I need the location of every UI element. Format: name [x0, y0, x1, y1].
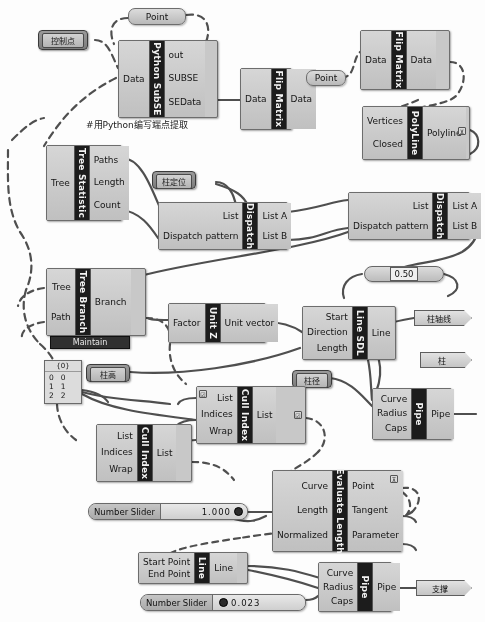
port-in-list[interactable]: List — [413, 201, 429, 212]
port-in-direction[interactable]: Direction — [307, 327, 348, 338]
port-in-curve[interactable]: Curve — [301, 481, 328, 492]
port-out-unit-vector[interactable]: Unit vector — [225, 318, 275, 329]
number-slider-1-knob[interactable] — [234, 507, 243, 516]
pipe-2-outputs[interactable]: Pipe — [373, 563, 400, 611]
port-in-end-point[interactable]: End Point — [148, 569, 190, 580]
tree-branch-outputs[interactable]: Branch — [91, 269, 131, 335]
port-out-tangent[interactable]: Tangent — [352, 505, 388, 516]
port-in-normalized[interactable]: Normalized — [277, 530, 328, 541]
number-slider-2-value[interactable]: 0.023 — [231, 598, 260, 608]
port-in-dispatch-pattern[interactable]: Dispatch pattern — [163, 231, 238, 242]
cull-index-1-outputs[interactable]: List — [253, 387, 277, 443]
tree-branch-maintain-bar[interactable]: Maintain — [50, 336, 130, 349]
line-sdl-inputs[interactable]: Start Direction Length — [303, 307, 352, 359]
line-sdl-outputs[interactable]: Line — [368, 307, 395, 359]
port-out-list-a[interactable]: List A — [262, 211, 287, 222]
port-in-start[interactable]: Start — [326, 312, 348, 323]
grasshopper-canvas[interactable]: Point 控制点 Data Python SubSE out SUBSE SE… — [0, 0, 485, 622]
component-unit-z[interactable]: Factor Unit Z Unit vector — [168, 303, 266, 343]
tag-column[interactable]: 柱 — [420, 352, 472, 368]
cull-index-2-outputs[interactable]: List — [153, 425, 177, 481]
port-in-wrap[interactable]: Wrap — [209, 426, 232, 437]
component-evaluate-length[interactable]: Curve Length Normalized Evaluate Length … — [272, 470, 402, 552]
label-column-height[interactable]: 柱高 — [86, 364, 130, 382]
component-line-sdl[interactable]: Start Direction Length Line SDL Line — [302, 306, 396, 360]
port-in-path[interactable]: Path — [51, 312, 71, 323]
flip-matrix-2-inputs[interactable]: Data — [361, 31, 391, 89]
component-line[interactable]: Start Point End Point Line Line — [138, 552, 248, 584]
number-value-text[interactable]: 0.50 — [390, 267, 419, 281]
port-out-subse[interactable]: SUBSE — [169, 73, 199, 84]
port-in-length[interactable]: Length — [297, 505, 328, 516]
unit-z-outputs[interactable]: Unit vector — [221, 304, 279, 342]
pipe-1-outputs[interactable]: Pipe — [427, 389, 454, 439]
port-in-radius[interactable]: Radius — [377, 408, 407, 419]
line-inputs[interactable]: Start Point End Point — [139, 553, 194, 583]
dispatch-1-inputs[interactable]: List Dispatch pattern — [159, 203, 242, 249]
python-subse-inputs[interactable]: Data — [119, 41, 149, 117]
port-in-dispatch-pattern[interactable]: Dispatch pattern — [353, 221, 428, 232]
port-out-list-b[interactable]: List B — [452, 221, 477, 232]
port-in-length[interactable]: Length — [317, 343, 348, 354]
tag-column-axis[interactable]: 柱轴线 — [414, 310, 472, 326]
port-out-paths[interactable]: Paths — [94, 155, 118, 166]
port-in-list[interactable]: List — [117, 431, 133, 442]
label-column-position[interactable]: 柱定位 — [152, 171, 196, 189]
dispatch-2-outputs[interactable]: List A List B — [448, 193, 481, 239]
port-in-list[interactable]: List — [217, 393, 233, 404]
tree-statistics-inputs[interactable]: Tree — [47, 146, 74, 220]
component-flip-matrix-2[interactable]: Data Flip Matrix Data — [360, 30, 450, 90]
port-in-curve[interactable]: Curve — [381, 394, 408, 405]
port-out-branch[interactable]: Branch — [95, 297, 127, 308]
number-slider-1-track[interactable]: 1.000 — [161, 504, 247, 519]
component-dispatch-1[interactable]: List Dispatch pattern Dispatch List A Li… — [158, 202, 288, 250]
port-out-line[interactable]: Line — [372, 328, 391, 339]
port-in-data[interactable]: Data — [365, 55, 387, 66]
port-in-indices[interactable]: Indices — [101, 447, 133, 458]
port-in-vertices[interactable]: Vertices — [367, 116, 403, 127]
component-dispatch-2[interactable]: List Dispatch pattern Dispatch List A Li… — [348, 192, 470, 240]
port-out-data[interactable]: Data — [411, 55, 433, 66]
polyline-inputs[interactable]: Vertices Closed — [363, 107, 407, 159]
number-slider-2-knob[interactable] — [219, 598, 228, 607]
port-out-line[interactable]: Line — [214, 563, 233, 574]
port-out-polyline[interactable]: Polyline — [427, 128, 462, 139]
component-flip-matrix-1[interactable]: Data Flip Matrix Data — [240, 68, 292, 130]
number-slider-1[interactable]: Number Slider 1.000 — [88, 503, 248, 520]
port-out-list-b[interactable]: List B — [262, 231, 287, 242]
number-slider-1-value[interactable]: 1.000 — [202, 507, 231, 517]
flatten-icon-output[interactable]: ☑ — [294, 411, 302, 419]
tag-support[interactable]: 支撑 — [416, 580, 472, 596]
port-out-data[interactable]: Data — [291, 94, 313, 105]
port-out-count[interactable]: Count — [94, 200, 121, 211]
dispatch-2-inputs[interactable]: List Dispatch pattern — [349, 193, 432, 239]
data-panel[interactable]: {0} 0 0 1 1 2 2 — [44, 360, 82, 404]
port-in-indices[interactable]: Indices — [201, 409, 233, 420]
port-in-data[interactable]: Data — [123, 74, 145, 85]
flip-matrix-1-inputs[interactable]: Data — [241, 69, 271, 129]
graft-icon-input[interactable]: ☑ — [199, 390, 207, 398]
port-in-radius[interactable]: Radius — [323, 582, 353, 593]
number-slider-2-track[interactable]: 0.023 — [213, 595, 305, 610]
component-tree-statistics[interactable]: Tree Tree Statistic Paths Length Count — [46, 145, 122, 221]
param-point-top[interactable]: Point — [128, 8, 186, 25]
port-in-caps[interactable]: Caps — [385, 423, 407, 434]
port-out-list[interactable]: List — [257, 410, 273, 421]
port-out-list[interactable]: List — [157, 448, 173, 459]
port-out-pipe[interactable]: Pipe — [431, 409, 450, 420]
port-in-start-point[interactable]: Start Point — [143, 557, 190, 568]
port-in-wrap[interactable]: Wrap — [109, 464, 132, 475]
port-out-parameter[interactable]: Parameter — [352, 530, 399, 541]
unit-z-inputs[interactable]: Factor — [169, 304, 205, 342]
python-subse-outputs[interactable]: out SUBSE SEData — [165, 41, 206, 117]
line-outputs[interactable]: Line — [210, 553, 237, 583]
number-value-capsule[interactable]: 0.50 — [364, 266, 444, 282]
port-out-length[interactable]: Length — [94, 177, 125, 188]
evaluate-length-outputs[interactable]: Point Tangent Parameter — [348, 471, 403, 551]
port-in-data[interactable]: Data — [245, 94, 267, 105]
label-control-points[interactable]: 控制点 — [38, 30, 88, 50]
dispatch-1-outputs[interactable]: List A List B — [258, 203, 291, 249]
port-out-list-a[interactable]: List A — [452, 201, 477, 212]
port-out-sedata[interactable]: SEData — [169, 97, 202, 108]
pipe-2-inputs[interactable]: Curve Radius Caps — [319, 563, 357, 611]
